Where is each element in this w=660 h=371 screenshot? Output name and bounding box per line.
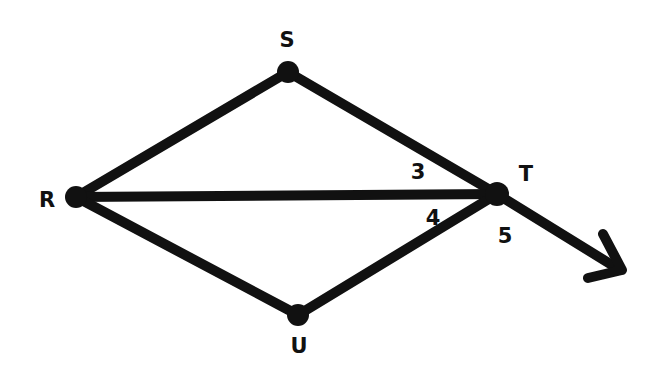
- segment-RU: [76, 197, 298, 315]
- point-label-T: T: [519, 164, 533, 185]
- point-R: [65, 186, 87, 208]
- angle-label-3: 3: [411, 162, 426, 183]
- point-label-R: R: [39, 190, 55, 211]
- angle-label-5: 5: [498, 226, 513, 247]
- angle-label-4: 4: [426, 208, 441, 229]
- segment-ST: [288, 72, 497, 194]
- geometry-diagram: R S T U 3 4 5: [0, 0, 660, 371]
- segment-UT: [298, 194, 497, 315]
- segment-RS: [76, 72, 288, 197]
- point-label-S: S: [279, 30, 294, 51]
- point-T: [485, 182, 509, 206]
- point-S: [277, 61, 299, 83]
- segment-RT: [76, 194, 497, 197]
- point-label-U: U: [290, 336, 307, 357]
- diagram-canvas: [0, 0, 660, 371]
- point-U: [287, 304, 309, 326]
